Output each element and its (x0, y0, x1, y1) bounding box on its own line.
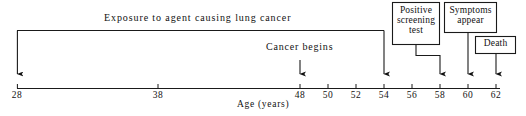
age-axis (17, 84, 500, 89)
tick-label-28: 28 (12, 91, 23, 101)
tick-label-62: 62 (491, 91, 502, 101)
age-axis-ticks (17, 84, 496, 89)
symptoms-appear-label: Symptoms appear (444, 6, 497, 26)
tick-label-58: 58 (435, 91, 446, 101)
tick-label-60: 60 (463, 91, 474, 101)
positive-screening-test-line-3: test (392, 26, 440, 36)
symptoms-appear-line-2: appear (444, 16, 497, 26)
tick-label-50: 50 (323, 91, 334, 101)
death-label: Death (475, 39, 516, 49)
tick-label-56: 56 (407, 91, 418, 101)
tick-label-54: 54 (379, 91, 390, 101)
tick-label-48: 48 (295, 91, 306, 101)
age-axis-title: Age (years) (237, 100, 289, 110)
tick-label-52: 52 (351, 91, 362, 101)
tick-label-38: 38 (153, 91, 164, 101)
timeline-diagram-figure: Exposure to agent causing lung cancer Ca… (0, 0, 526, 116)
positive-screening-test-connector (416, 45, 440, 75)
cancer-begins-label: Cancer begins (266, 42, 333, 53)
positive-screening-test-label: Positive screening test (392, 6, 440, 36)
exposure-band-label: Exposure to agent causing lung cancer (104, 13, 291, 24)
death-line-1: Death (475, 39, 516, 49)
